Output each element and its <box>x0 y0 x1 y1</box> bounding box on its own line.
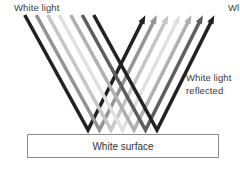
white-light-reflected-label: White light reflected <box>186 72 231 97</box>
truncated-white-light-label: Wl <box>228 2 239 15</box>
white-surface-label: White surface <box>92 141 153 152</box>
white-surface-box: White surface <box>27 134 219 158</box>
light-reflection-diagram: White light Wl White light reflected Whi… <box>0 0 240 170</box>
white-light-reflected-line1: White light <box>186 72 231 85</box>
white-light-label: White light <box>14 2 59 15</box>
white-light-reflected-line2: reflected <box>186 85 231 98</box>
